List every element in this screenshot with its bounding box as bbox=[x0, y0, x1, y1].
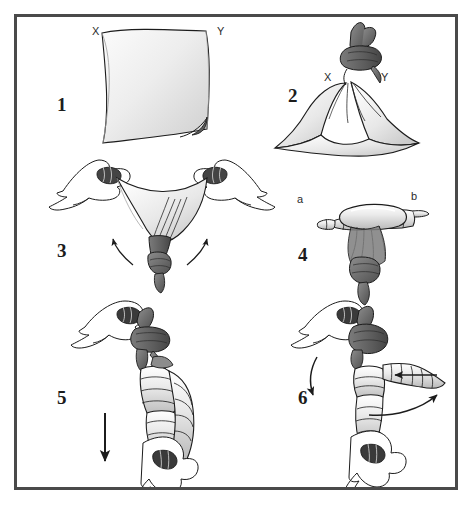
panel-3-artwork bbox=[49, 160, 275, 293]
panel-1-corner-label-x: X bbox=[92, 26, 99, 37]
hand-left-panel-3 bbox=[49, 160, 130, 210]
panel-2-number: 2 bbox=[288, 86, 298, 105]
panel-5-artwork bbox=[71, 301, 198, 487]
panel-4-artwork bbox=[317, 204, 429, 305]
panel-4-number: 4 bbox=[298, 245, 308, 264]
panel-4-end-label-b: b bbox=[411, 191, 417, 202]
diagram-artwork bbox=[17, 17, 455, 487]
panel-1-corner-label-y: Y bbox=[217, 26, 224, 37]
panel-6-number: 6 bbox=[298, 388, 308, 407]
panel-1-number: 1 bbox=[57, 95, 67, 114]
instructional-figure: 1 X Y 2 X Y 3 4 a b 5 6 bbox=[0, 0, 476, 506]
figure-frame: 1 X Y 2 X Y 3 4 a b 5 6 bbox=[14, 14, 458, 490]
panel-3-number: 3 bbox=[57, 241, 67, 260]
panel-2-corner-label-y: Y bbox=[381, 72, 388, 83]
panel-5-number: 5 bbox=[57, 388, 67, 407]
panel-2-corner-label-x: X bbox=[324, 72, 331, 83]
panel-4-end-label-a: a bbox=[297, 194, 303, 205]
panel-1-artwork bbox=[102, 29, 210, 143]
hand-lower-panel-6 bbox=[342, 431, 406, 487]
panel-6-artwork bbox=[291, 301, 445, 487]
